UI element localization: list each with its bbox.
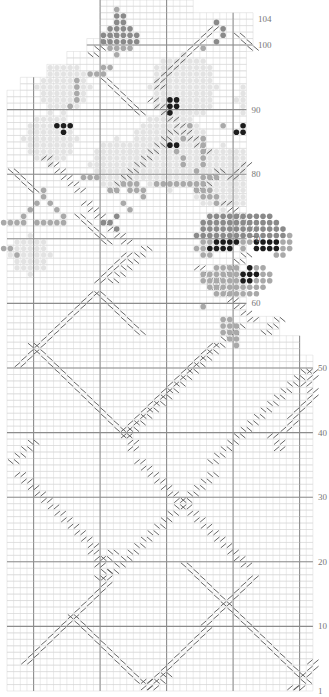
minor-grid [7, 0, 313, 691]
row-label-20: 20 [318, 557, 328, 567]
row-label-104: 104 [258, 14, 272, 24]
row-label-90: 90 [251, 105, 261, 115]
row-label-40: 40 [318, 428, 328, 438]
knitting-chart: 1102030405060708090100104 [0, 0, 329, 697]
row-label-30: 30 [318, 492, 328, 502]
row-label-100: 100 [258, 40, 272, 50]
row-label-60: 60 [251, 298, 261, 308]
row-label-80: 80 [251, 169, 261, 179]
row-label-1: 1 [318, 686, 323, 696]
row-label-10: 10 [318, 621, 328, 631]
row-label-50: 50 [318, 363, 328, 373]
row-label-70: 70 [251, 234, 261, 244]
